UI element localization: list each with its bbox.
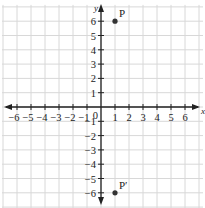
point-label: P′ xyxy=(119,179,128,191)
x-tick-label: −4 xyxy=(36,112,48,123)
x-tick-label: −6 xyxy=(8,112,19,123)
origin-label: 0 xyxy=(93,110,98,121)
y-tick-label: 3 xyxy=(91,59,96,70)
point-marker xyxy=(112,19,117,24)
point-label: P xyxy=(119,7,125,19)
coordinate-plane: xy−6−5−4−3−2−1123456654321−1−2−3−4−5−60 … xyxy=(0,0,205,208)
x-tick-label: 3 xyxy=(140,112,145,123)
y-tick-label: −2 xyxy=(85,131,96,142)
y-tick-label: −3 xyxy=(85,145,96,156)
y-tick-label: 6 xyxy=(91,16,96,27)
x-axis-label: x xyxy=(200,106,205,116)
x-tick-label: −2 xyxy=(64,112,75,123)
y-axis-up-arrow-icon xyxy=(98,4,104,12)
x-tick-label: −5 xyxy=(22,112,33,123)
x-tick-label: 1 xyxy=(112,112,117,123)
x-tick-label: 4 xyxy=(154,112,160,123)
y-tick-label: −4 xyxy=(85,159,97,170)
point-marker xyxy=(112,190,117,195)
y-tick-label: 4 xyxy=(91,45,97,56)
x-tick-label: 2 xyxy=(126,112,131,123)
y-tick-label: 1 xyxy=(91,88,96,99)
y-axis-label: y xyxy=(93,3,98,13)
y-tick-label: −6 xyxy=(85,188,96,199)
y-tick-label: 2 xyxy=(91,73,96,84)
x-axis-left-arrow-icon xyxy=(4,104,12,110)
x-tick-label: −3 xyxy=(50,112,61,123)
y-tick-label: 5 xyxy=(91,31,96,42)
y-tick-label: −5 xyxy=(85,174,96,185)
x-tick-label: 5 xyxy=(168,112,173,123)
x-tick-label: 6 xyxy=(182,112,187,123)
y-axis-down-arrow-icon xyxy=(98,197,104,205)
tick-labels: xy−6−5−4−3−2−1123456654321−1−2−3−4−5−60 xyxy=(8,3,205,199)
